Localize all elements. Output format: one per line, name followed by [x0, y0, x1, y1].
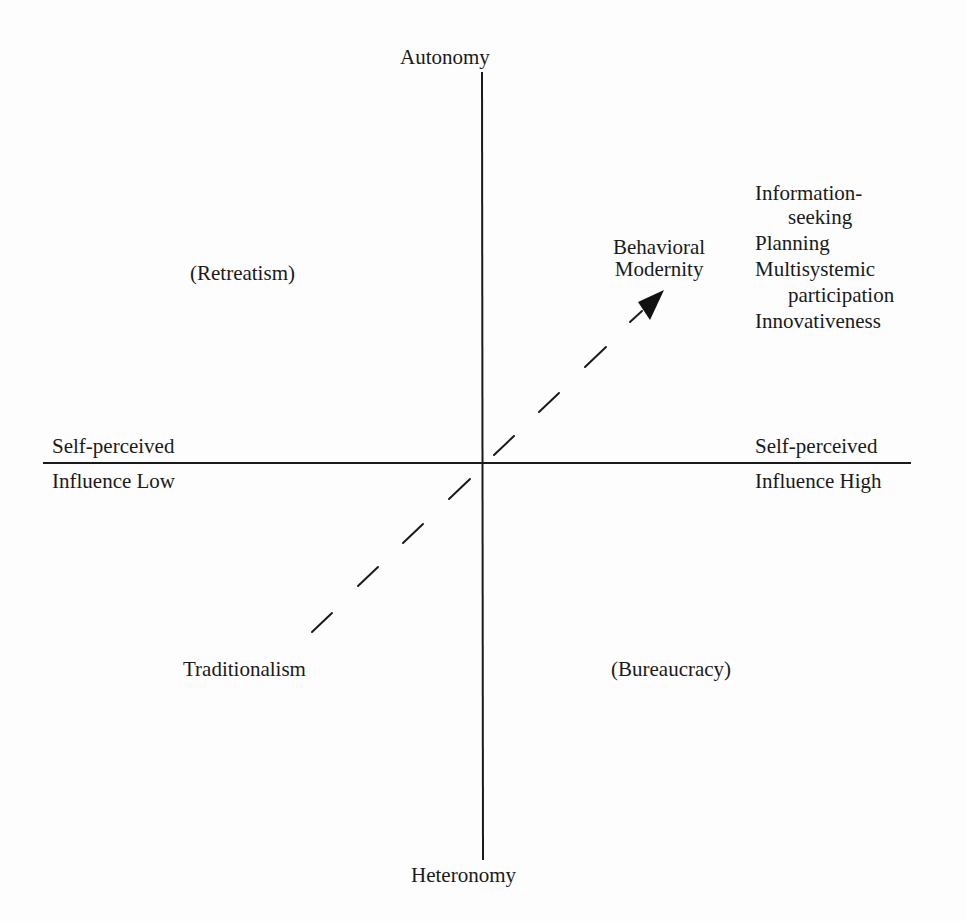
low-influence-top-label: Self-perceived	[52, 435, 174, 457]
trait-item: Innovativeness	[755, 310, 881, 332]
retreatism-label: (Retreatism)	[190, 262, 295, 284]
trait-item: seeking	[788, 206, 852, 228]
trait-item: Planning	[755, 232, 830, 254]
trait-item: Multisystemic	[755, 258, 875, 280]
diagram-lines	[0, 0, 966, 921]
trait-item: Information-	[755, 182, 862, 204]
high-influence-top-label: Self-perceived	[755, 435, 877, 457]
high-influence-bottom-label: Influence High	[755, 470, 882, 492]
low-influence-bottom-label: Influence Low	[52, 470, 175, 492]
behavioral-modernity-line1: Behavioral	[613, 236, 705, 258]
arrow-head-icon	[638, 290, 664, 320]
dashed-arrow	[312, 311, 642, 632]
traditionalism-label: Traditionalism	[183, 658, 306, 680]
trait-item: participation	[788, 284, 894, 306]
behavioral-modernity-label: Behavioral Modernity	[613, 236, 705, 280]
bureaucracy-label: (Bureaucracy)	[611, 658, 731, 680]
autonomy-label: Autonomy	[400, 46, 490, 68]
heteronomy-label: Heteronomy	[411, 864, 516, 886]
behavioral-modernity-line2: Modernity	[613, 258, 705, 280]
vertical-axis	[482, 72, 483, 860]
